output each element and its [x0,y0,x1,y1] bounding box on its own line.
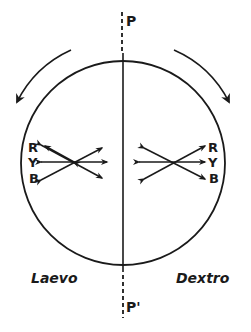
axis-bottom-label: P' [126,299,141,315]
axis-top-label: P [126,13,136,29]
left-label-r: R [28,140,38,155]
right-label-r: R [208,140,218,155]
clockwise-arrow [174,50,229,102]
right-label-y: Y [207,155,218,170]
right-label-b: B [209,171,219,186]
right-ray-arrows [139,146,205,179]
left-ray-arrows [41,145,107,180]
dextro-label: Dextro [176,270,230,286]
left-label-b: B [29,171,39,186]
optical-rotation-diagram: P P' R Y B R Y B Laevo Dextro [0,0,251,332]
counterclockwise-arrow [17,50,71,102]
left-label-y: Y [27,155,38,170]
laevo-label: Laevo [31,270,78,286]
